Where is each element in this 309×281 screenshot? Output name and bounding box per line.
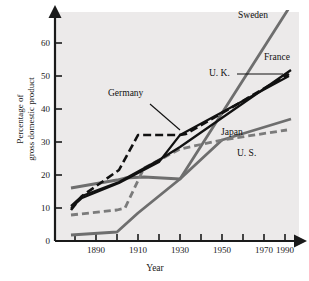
germany-leader-line — [150, 104, 180, 130]
series-label-us: U. S. — [237, 148, 256, 158]
series-label-germany: Germany — [108, 88, 143, 98]
series-label-japan: Japan — [221, 127, 243, 137]
y-tick-label-10: 10 — [30, 203, 50, 213]
x-axis-title: Year — [120, 263, 190, 273]
series-label-france: France — [264, 52, 290, 62]
x-tick-label-1890: 1890 — [79, 245, 113, 255]
chart-container: 0 10 20 30 40 50 60 1890 1910 1930 1950 … — [0, 0, 309, 281]
x-tick-label-1990: 1990 — [268, 245, 302, 255]
series-line-japan — [71, 130, 287, 215]
y-axis-title-line2: gross domestic product — [26, 77, 36, 161]
series-label-sweden: Sweden — [238, 10, 268, 20]
series-line-france — [71, 70, 291, 206]
series-line-us — [71, 119, 291, 188]
x-tick-label-1930: 1930 — [163, 245, 197, 255]
series-label-uk: U. K. — [209, 68, 230, 78]
y-tick-label-0: 0 — [30, 236, 50, 246]
series-line-sweden — [71, 0, 296, 235]
y-axis-title: Percentage of gross domestic product — [15, 44, 37, 194]
x-tick-label-1950: 1950 — [205, 245, 239, 255]
y-axis-title-line1: Percentage of — [15, 94, 25, 143]
x-tick-label-1910: 1910 — [121, 245, 155, 255]
